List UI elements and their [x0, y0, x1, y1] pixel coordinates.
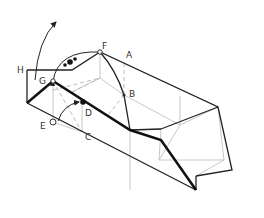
point-e — [50, 119, 56, 125]
rotation-arc-ed — [58, 102, 79, 121]
point-g — [51, 79, 55, 83]
label-g: G — [39, 76, 46, 86]
label-e: E — [40, 121, 46, 131]
label-h: H — [17, 65, 24, 75]
label-d: D — [85, 108, 92, 118]
point-d — [80, 99, 86, 105]
rotation-arrow-h — [35, 22, 56, 80]
label-c: C — [85, 132, 91, 142]
double-dot-marker — [63, 57, 77, 67]
label-f: F — [102, 41, 107, 51]
inner-edges — [53, 52, 224, 190]
point-b — [122, 93, 125, 96]
bold-edge — [27, 81, 196, 190]
diagram-canvas: A B C D E F G H — [0, 0, 264, 218]
label-a: A — [126, 50, 133, 60]
label-b: B — [129, 89, 135, 99]
